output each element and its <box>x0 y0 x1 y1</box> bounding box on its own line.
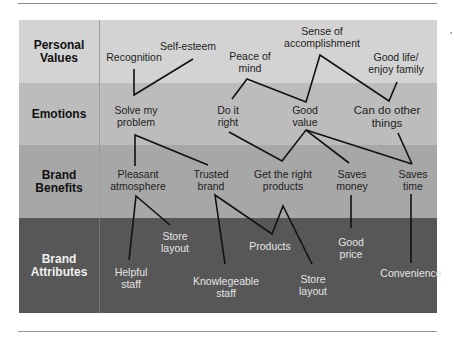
node-peace-of-mind: Peace ofmind <box>229 50 270 74</box>
node-text-line: atmosphere <box>110 180 165 192</box>
node-good-price: Goodprice <box>338 236 364 260</box>
node-text-line: Good <box>338 236 364 248</box>
node-text-line: Convenience <box>380 267 441 279</box>
node-text-line: Can do other <box>354 104 421 117</box>
node-self-esteem: Self-esteem <box>160 40 216 52</box>
node-text-line: layout <box>299 285 327 297</box>
bottom-rule <box>18 331 437 332</box>
node-trusted-brand: Trustedbrand <box>193 168 228 192</box>
node-solve-my-problem: Solve myproblem <box>114 104 157 128</box>
node-text-line: Good life/ <box>368 51 423 63</box>
row-label-emotions: Emotions <box>19 83 100 145</box>
node-sense-of-accomplishment: Sense ofaccomplishment <box>284 25 360 49</box>
row-label-brand-attributes: BrandAttributes <box>19 218 100 313</box>
node-text-line: Helpful <box>115 266 148 278</box>
top-rule <box>18 3 437 4</box>
node-text-line: things <box>354 117 421 130</box>
node-text-line: Recognition <box>106 51 161 63</box>
node-text-line: layout <box>161 242 189 254</box>
node-text-line: staff <box>115 278 148 290</box>
node-text-line: Do it <box>217 104 239 116</box>
node-text-line: Products <box>249 240 290 252</box>
node-text-line: price <box>338 248 364 260</box>
node-store-layout-1: Storelayout <box>161 230 189 254</box>
node-text-line: mind <box>229 62 270 74</box>
node-text-line: brand <box>193 180 228 192</box>
node-text-line: Saves <box>398 168 427 180</box>
node-text-line: Store <box>161 230 189 242</box>
node-text-line: accomplishment <box>284 37 360 49</box>
node-products: Products <box>249 240 290 252</box>
node-saves-time: Savestime <box>398 168 427 192</box>
node-text-line: time <box>398 180 427 192</box>
node-recognition: Recognition <box>106 51 161 63</box>
label-line: Emotions <box>32 107 87 121</box>
node-text-line: enjoy family <box>368 63 423 75</box>
row-label-personal-values: PersonalValues <box>19 20 100 83</box>
node-can-do-other-things: Can do otherthings <box>354 104 421 130</box>
node-saves-money: Savesmoney <box>336 168 368 192</box>
node-knowlegeable-staff: Knowlegeablestaff <box>193 275 259 299</box>
label-line: Brand <box>42 168 77 182</box>
label-line: Benefits <box>35 181 82 195</box>
node-text-line: Trusted <box>193 168 228 180</box>
node-text-line: Get the right <box>254 168 312 180</box>
node-text-line: staff <box>193 287 259 299</box>
node-text-line: Knowlegeable <box>193 275 259 287</box>
node-store-layout-2: Storelayout <box>299 273 327 297</box>
node-helpful-staff: Helpfulstaff <box>115 266 148 290</box>
node-text-line: problem <box>114 116 157 128</box>
label-line: Personal <box>34 38 85 52</box>
node-do-it-right: Do itright <box>217 104 239 128</box>
node-text-line: right <box>217 116 239 128</box>
node-text-line: value <box>292 116 318 128</box>
node-text-line: money <box>336 180 368 192</box>
node-good-value: Goodvalue <box>292 104 318 128</box>
node-text-line: Good <box>292 104 318 116</box>
node-pleasant-atmosphere: Pleasantatmosphere <box>110 168 165 192</box>
node-text-line: Saves <box>336 168 368 180</box>
node-convenience: Convenience <box>380 267 441 279</box>
node-text-line: Pleasant <box>110 168 165 180</box>
node-good-life: Good life/enjoy family <box>368 51 423 75</box>
label-line: Values <box>40 51 78 65</box>
label-line: Attributes <box>31 265 88 279</box>
node-get-the-right-products: Get the rightproducts <box>254 168 312 192</box>
speck-mark <box>450 32 452 34</box>
label-line: Brand <box>42 252 77 266</box>
row-label-brand-benefits: BrandBenefits <box>19 145 100 218</box>
node-text-line: Solve my <box>114 104 157 116</box>
node-text-line: Self-esteem <box>160 40 216 52</box>
node-text-line: Peace of <box>229 50 270 62</box>
node-text-line: Store <box>299 273 327 285</box>
node-text-line: products <box>254 180 312 192</box>
node-text-line: Sense of <box>284 25 360 37</box>
